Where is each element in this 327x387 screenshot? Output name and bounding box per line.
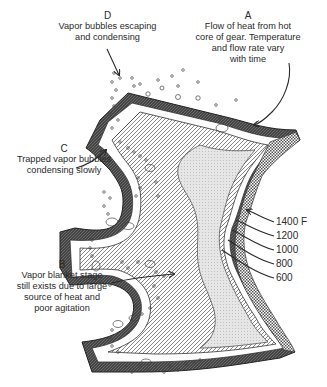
annotation-C-line-1: Trapped vapor bubbles <box>8 154 120 165</box>
isotherm-label-800: 800 <box>276 258 293 270</box>
annotation-D-line-2: and condensing <box>50 32 165 43</box>
annotation-B: B Vapor blanket stage still exists due t… <box>6 259 118 314</box>
annotation-A-line-4: with time <box>184 54 312 65</box>
annotation-A-line-2: core of gear. Temperature <box>184 32 312 43</box>
isotherm-label-1400: 1400 F <box>276 216 307 228</box>
annotation-C: C Trapped vapor bubbles condensing slowl… <box>8 143 120 176</box>
annotation-B-line-3: source of heat and <box>6 292 118 303</box>
annotation-D-letter: D <box>50 10 165 21</box>
annotation-A-line-1: Flow of heat from hot <box>184 21 312 32</box>
annotation-D: D Vapor bubbles escaping and condensing <box>50 10 165 43</box>
annotation-A: A Flow of heat from hot core of gear. Te… <box>184 10 312 65</box>
arrow-D <box>107 49 119 75</box>
annotation-B-line-4: poor agitation <box>6 303 118 314</box>
annotation-C-letter: C <box>8 143 120 154</box>
annotation-B-line-2: still exists due to large <box>6 281 118 292</box>
annotation-A-line-3: and flow rate vary <box>184 43 312 54</box>
annotation-B-letter: B <box>6 259 118 270</box>
annotation-C-line-2: condensing slowly <box>8 165 120 176</box>
annotation-A-letter: A <box>184 10 312 21</box>
arrow-1400 <box>247 210 274 222</box>
annotation-B-line-1: Vapor blanket stage <box>6 270 118 281</box>
isotherm-label-1000: 1000 <box>276 244 298 256</box>
isotherm-label-1200: 1200 <box>276 230 298 242</box>
annotation-D-line-1: Vapor bubbles escaping <box>50 21 165 32</box>
arrow-A <box>254 63 290 125</box>
isotherm-label-600: 600 <box>276 272 293 284</box>
